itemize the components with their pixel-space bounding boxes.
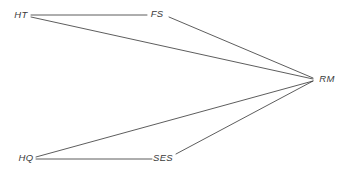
edge-ht-rm [31,17,313,79]
node-label-rm: RM [319,74,334,84]
node-label-ht: HT [14,10,27,20]
edge-hq-rm [36,81,313,157]
edges-group [31,15,313,159]
node-label-fs: FS [151,9,164,19]
node-label-ses: SES [153,153,173,163]
path-diagram: HTFSRMHQSES [0,0,347,172]
edge-layer [0,0,347,172]
edge-fs-rm [169,17,313,78]
node-label-hq: HQ [19,153,34,163]
edge-ses-rm [176,81,313,154]
